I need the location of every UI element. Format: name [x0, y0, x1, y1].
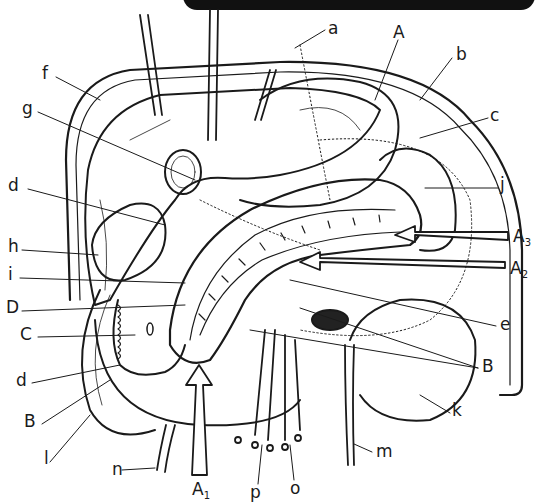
label-c: c — [490, 107, 499, 124]
label-C: C — [20, 326, 32, 343]
label-A: A — [393, 24, 405, 41]
label-A3: A3 — [513, 228, 531, 248]
vessel-cut — [312, 310, 348, 330]
arrow-A1 — [186, 365, 212, 475]
label-p: p — [250, 484, 261, 501]
label-m: m — [376, 443, 393, 460]
label-k: k — [452, 402, 462, 419]
label-d-upper: d — [8, 177, 19, 194]
label-a: a — [328, 20, 338, 37]
label-b: b — [456, 46, 467, 63]
ureter — [345, 345, 354, 465]
mesenteric-vessels — [235, 330, 301, 451]
label-A1: A1 — [192, 481, 210, 501]
label-B-left: B — [24, 413, 36, 430]
splenic-vessels — [199, 215, 380, 320]
illustration — [0, 0, 537, 503]
label-n: n — [112, 461, 123, 478]
leader-lines — [20, 30, 498, 484]
stomach — [240, 79, 398, 207]
label-d-lower: d — [16, 372, 27, 389]
label-j: j — [500, 176, 505, 193]
label-A3-sub: 3 — [525, 237, 531, 248]
label-h: h — [8, 238, 19, 255]
retractors — [140, 10, 276, 140]
vessel-n — [157, 425, 175, 472]
label-A2: A2 — [510, 260, 528, 280]
label-o: o — [290, 480, 300, 497]
label-A1-sub: 1 — [204, 490, 210, 501]
duodenum-cut — [165, 150, 201, 194]
label-l: l — [44, 450, 49, 467]
label-e: e — [500, 316, 510, 333]
label-B-right: B — [482, 358, 494, 375]
label-A1-main: A — [192, 479, 204, 499]
anatomy-diagram: a A b c j f g d h i D C d B l n A1 p o m… — [0, 0, 537, 503]
label-D: D — [6, 299, 19, 316]
abdominal-wall — [66, 62, 522, 395]
label-A3-main: A — [513, 226, 525, 246]
label-A2-sub: 2 — [522, 269, 528, 280]
label-g: g — [22, 100, 33, 117]
liver — [85, 88, 380, 305]
label-f: f — [42, 65, 48, 82]
label-i: i — [8, 266, 13, 283]
label-A2-main: A — [510, 258, 522, 278]
